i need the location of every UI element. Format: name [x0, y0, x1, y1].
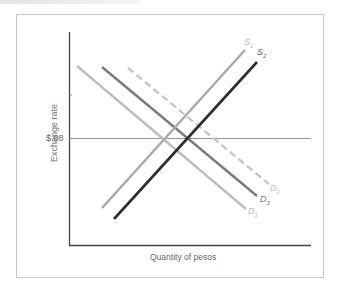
label-d2: D2	[270, 183, 280, 195]
supply-curve-s1	[102, 50, 245, 208]
label-d3: D3	[260, 194, 270, 206]
supply-curve-s2	[114, 62, 257, 219]
label-d1: D1	[248, 206, 258, 218]
label-s1: S1	[244, 37, 253, 49]
y-tick-label: $.08	[46, 133, 64, 143]
demand-curve-d1	[77, 66, 246, 209]
label-s2: S2	[257, 47, 266, 59]
x-axis-label: Quantity of pesos	[150, 252, 216, 262]
